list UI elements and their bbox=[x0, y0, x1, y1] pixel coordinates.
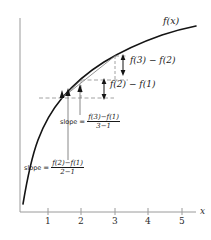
fraction-denominator-upper: 3−1 bbox=[87, 122, 120, 130]
fraction-denominator-lower: 2−1 bbox=[51, 168, 84, 176]
slope-word-upper: slope bbox=[60, 119, 77, 126]
x-tick-label-3: 3 bbox=[112, 217, 118, 226]
secant-line-1-to-3 bbox=[62, 56, 115, 98]
fraction-slope-1-2: f(2)−f(1) 2−1 bbox=[51, 160, 84, 176]
double-arrow-f2-minus-f1 bbox=[102, 78, 107, 100]
curve-label-fx: f(x) bbox=[163, 16, 179, 26]
label-slope-secant-1-3: slope = f(3)−f(1) 3−1 bbox=[60, 114, 120, 130]
label-diff-f3-f2: f(3) − f(2) bbox=[130, 56, 175, 65]
slope-word-lower: slope bbox=[24, 165, 41, 172]
x-axis-label: x bbox=[200, 207, 205, 216]
label-diff-f2-f1: f(2) − f(1) bbox=[110, 80, 155, 89]
double-arrow-f3-minus-f2 bbox=[121, 54, 126, 76]
fraction-numerator-lower: f(2)−f(1) bbox=[51, 160, 84, 169]
x-tick-label-1: 1 bbox=[45, 217, 51, 226]
function-secant-slope-figure: f(x) x 1 2 3 4 5 f(3) − f(2) f(2) − f(1)… bbox=[0, 0, 211, 240]
curve-marker-x1 bbox=[60, 90, 65, 98]
equals-sign-upper: = bbox=[79, 119, 85, 126]
x-tick-label-5: 5 bbox=[179, 217, 185, 226]
x-tick-label-2: 2 bbox=[78, 217, 84, 226]
fraction-numerator-upper: f(3)−f(1) bbox=[87, 114, 120, 123]
label-slope-secant-1-2: slope = f(2)−f(1) 2−1 bbox=[24, 160, 84, 176]
pointer-arrow-slope-1-3 bbox=[77, 84, 82, 115]
equals-sign-lower: = bbox=[43, 165, 49, 172]
fraction-slope-1-3: f(3)−f(1) 3−1 bbox=[87, 114, 120, 130]
x-tick-label-4: 4 bbox=[145, 217, 151, 226]
secant-line-1-to-2 bbox=[62, 80, 81, 98]
